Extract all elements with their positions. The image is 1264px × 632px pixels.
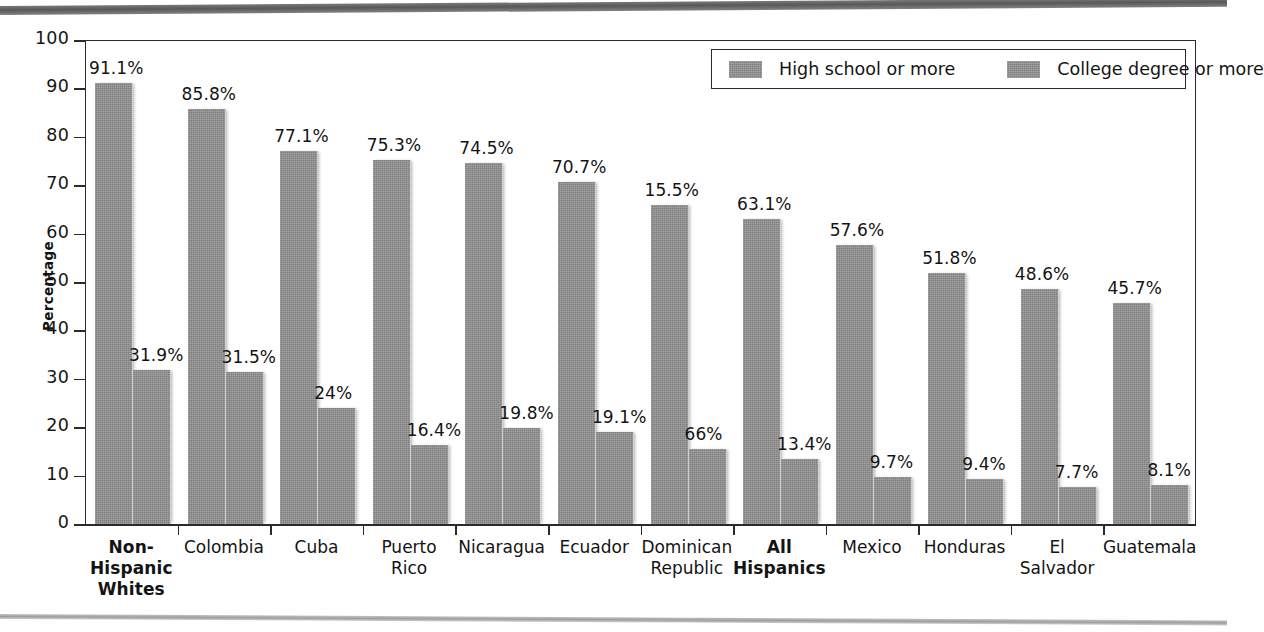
page-edge-top-artifact <box>0 0 1227 15</box>
bar-high-school-value-label: 85.8% <box>182 84 237 104</box>
x-axis-tick-mark <box>733 524 735 535</box>
y-axis-tick-label: 40 <box>46 318 69 338</box>
x-axis-tick-mark <box>178 524 180 535</box>
y-axis-tick-mark <box>74 137 85 139</box>
bar-college-degree <box>874 477 912 524</box>
bar-college-degree-value-label: 66% <box>685 424 723 444</box>
x-axis-tick-mark <box>270 524 272 535</box>
bar-high-school-value-label: 91.1% <box>89 58 144 78</box>
bar-high-school <box>928 273 966 524</box>
bar-high-school-value-label: 74.5% <box>459 138 514 158</box>
bar-college-degree <box>966 479 1004 524</box>
y-axis-tick-mark <box>74 330 85 332</box>
bar-group: 70.7%19.1% <box>548 40 641 524</box>
bar-group: 63.1%13.4% <box>733 40 826 524</box>
bar-high-school-value-label: 15.5% <box>645 180 700 200</box>
x-axis-label-line: Whites <box>77 579 186 600</box>
bar-high-school-value-label: 45.7% <box>1107 278 1162 298</box>
bar-college-degree-value-label: 9.7% <box>870 452 914 472</box>
y-axis-tick-mark <box>74 476 85 478</box>
bar-college-degree-value-label: 31.5% <box>222 347 277 367</box>
y-axis-tick-label: 50 <box>46 270 69 290</box>
x-axis-tick-mark <box>826 524 828 535</box>
bar-group: 51.8%9.4% <box>918 40 1011 524</box>
bar-high-school <box>651 205 689 524</box>
x-axis-label-line: Hispanics <box>725 558 834 579</box>
legend-swatch-icon-college-degree <box>1007 61 1040 78</box>
bar-college-degree <box>318 408 356 524</box>
bar-group: 74.5%19.8% <box>455 40 548 524</box>
bar-college-degree-value-label: 24% <box>314 383 352 403</box>
bar-high-school-value-label: 48.6% <box>1015 264 1070 284</box>
y-axis-tick-label: 20 <box>46 415 69 435</box>
y-axis-tick-mark <box>74 185 85 187</box>
y-axis-tick-label: 60 <box>46 222 69 242</box>
bar-college-degree <box>1151 485 1189 524</box>
bar-college-degree-value-label: 8.1% <box>1147 460 1191 480</box>
bar-college-degree-value-label: 19.8% <box>499 403 554 423</box>
x-axis-tick-mark <box>455 524 457 535</box>
bar-college-degree <box>1059 487 1097 524</box>
bar-high-school <box>558 182 596 524</box>
page-edge-bottom-artifact <box>0 614 1227 625</box>
bar-college-degree <box>596 432 634 524</box>
bar-group: 48.6%7.7% <box>1011 40 1104 524</box>
bar-college-degree-value-label: 19.1% <box>592 407 647 427</box>
legend-label-college-degree: College degree or more <box>1057 59 1264 79</box>
x-axis-tick-mark <box>548 524 550 535</box>
bar-group: 75.3%16.4% <box>363 40 456 524</box>
y-axis-tick-mark <box>74 234 85 236</box>
y-axis-tick-label: 100 <box>35 28 69 48</box>
y-axis-tick-label: 80 <box>46 125 69 145</box>
y-axis-tick-label: 10 <box>46 464 69 484</box>
bar-college-degree-value-label: 31.9% <box>129 345 184 365</box>
bar-high-school <box>743 219 781 524</box>
legend-item-high-school: High school or more <box>729 59 955 79</box>
y-axis-tick-mark <box>74 88 85 90</box>
bar-group: 15.5%66% <box>641 40 734 524</box>
bar-high-school <box>1113 303 1151 524</box>
bar-high-school-value-label: 75.3% <box>367 135 422 155</box>
bar-high-school-value-label: 70.7% <box>552 157 607 177</box>
bar-college-degree <box>503 428 541 524</box>
y-axis-tick-mark <box>74 427 85 429</box>
bar-college-degree-value-label: 9.4% <box>962 454 1006 474</box>
bar-college-degree <box>689 449 727 524</box>
bar-college-degree-value-label: 13.4% <box>777 434 832 454</box>
x-axis-tick-mark <box>641 524 643 535</box>
bar-college-degree-value-label: 16.4% <box>407 420 462 440</box>
bar-group: 77.1%24% <box>270 40 363 524</box>
y-axis-tick-mark <box>74 40 85 42</box>
x-axis-label-line: Rico <box>355 558 464 579</box>
x-axis-label-guatemala: Guatemala <box>1095 537 1204 558</box>
chart-legend: High school or more College degree or mo… <box>711 49 1186 89</box>
y-axis-tick-label: 70 <box>46 173 69 193</box>
bar-high-school-value-label: 57.6% <box>830 220 885 240</box>
bar-chart-plot: 91.1%31.9%85.8%31.5%77.1%24%75.3%16.4%74… <box>85 40 1196 524</box>
y-axis-tick-mark <box>74 524 85 526</box>
legend-item-college-degree: College degree or more <box>1007 59 1264 79</box>
bar-high-school <box>373 160 411 524</box>
bar-high-school <box>280 151 318 524</box>
x-axis-tick-mark <box>363 524 365 535</box>
bar-college-degree <box>226 372 264 524</box>
y-axis-tick-label: 0 <box>58 512 69 532</box>
bar-group: 45.7%8.1% <box>1103 40 1196 524</box>
x-axis-label-line: Hispanic <box>77 558 186 579</box>
bar-high-school <box>836 245 874 524</box>
y-axis-tick-label: 90 <box>46 76 69 96</box>
y-axis-tick-label: 30 <box>46 367 69 387</box>
x-axis-label-line: Guatemala <box>1095 537 1204 558</box>
bar-group: 91.1%31.9% <box>85 40 178 524</box>
bar-group: 85.8%31.5% <box>178 40 271 524</box>
x-axis-label-line: Salvador <box>1003 558 1112 579</box>
x-axis-tick-mark <box>1011 524 1013 535</box>
x-axis-tick-mark <box>1103 524 1105 535</box>
y-axis-tick-mark <box>74 282 85 284</box>
bar-high-school-value-label: 77.1% <box>274 126 329 146</box>
bar-college-degree <box>781 459 819 524</box>
y-axis-tick-mark <box>74 379 85 381</box>
legend-swatch-icon-high-school <box>729 61 762 78</box>
bar-group: 57.6%9.7% <box>826 40 919 524</box>
legend-label-high-school: High school or more <box>779 59 955 79</box>
